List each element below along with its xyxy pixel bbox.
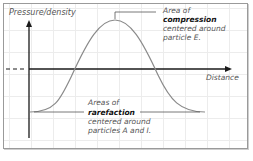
rarefaction-line3: centered around bbox=[88, 117, 150, 126]
rarefaction-line4: particles A and I. bbox=[88, 126, 151, 135]
y-axis-label: Pressure/density bbox=[9, 8, 76, 17]
x-axis-label: Distance bbox=[206, 73, 239, 82]
rarefaction-bold: rarefaction bbox=[88, 108, 135, 117]
compression-leader bbox=[115, 12, 156, 19]
compression-line1: Area of bbox=[163, 6, 190, 15]
y-axis-arrow-icon bbox=[26, 20, 32, 27]
x-axis-arrow-icon bbox=[225, 66, 232, 72]
rarefaction-line1: Areas of bbox=[88, 98, 119, 107]
compression-line4: particle E. bbox=[163, 33, 201, 42]
compression-bold: compression bbox=[163, 15, 217, 24]
compression-line3: centered around bbox=[163, 24, 225, 33]
